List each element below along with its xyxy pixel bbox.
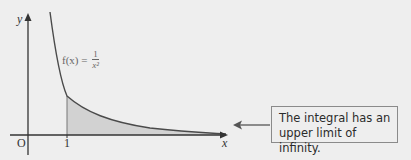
callout-box: The integral has an upper limit of infin… — [271, 106, 398, 143]
x-axis-label: x — [222, 136, 227, 151]
function-label: f(x) = 1 x² — [62, 49, 99, 70]
fraction: 1 x² — [92, 49, 99, 70]
fraction-numerator: 1 — [92, 49, 99, 60]
y-axis-label: y — [17, 12, 22, 27]
origin-label: O — [17, 136, 26, 151]
callout-line-2: upper limit of infinity. — [279, 126, 391, 156]
y-axis-arrowhead — [25, 13, 32, 21]
shaded-area — [67, 96, 226, 135]
tick-label-1: 1 — [64, 136, 70, 151]
fraction-denominator: x² — [92, 60, 99, 70]
callout-line-1: The integral has an — [279, 111, 391, 126]
function-label-prefix: f(x) = — [62, 54, 90, 66]
